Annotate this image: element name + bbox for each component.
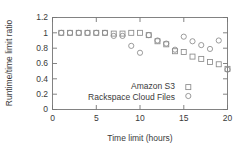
x-tick-label-0: 0 [50,113,55,123]
x-tick-label-1: 5 [94,113,99,123]
legend-label-rackspace-cloud-files: Rackspace Cloud Files [88,92,175,102]
scatter-plot: Runtime/time limit ratio Time limit (hou… [0,0,245,151]
chart-figure: Runtime/time limit ratio Time limit (hou… [0,0,245,151]
x-axis-title: Time limit (hours) [107,133,172,143]
y-tick-label-1: 0.2 [36,89,48,99]
x-tick-label-3: 15 [179,113,189,123]
x-tick-label-4: 20 [223,113,233,123]
y-tick-label-3: 0.6 [36,58,48,68]
y-axis-title: Runtime/time limit ratio [4,20,14,107]
y-tick-label-6: 1.2 [36,12,48,22]
y-tick-label-5: 1 [43,28,48,38]
y-tick-label-0: 0 [43,104,48,114]
legend-label-amazon-s3: Amazon S3 [131,81,175,91]
y-tick-label-2: 0.4 [36,74,48,84]
x-tick-label-2: 10 [135,113,145,123]
y-tick-label-4: 0.8 [36,43,48,53]
